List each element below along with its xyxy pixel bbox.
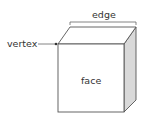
edge-bracket [70, 22, 136, 25]
vertex-pointer [38, 43, 57, 46]
vertex-label: vertex [7, 39, 37, 49]
face-label: face [81, 76, 101, 86]
cube-graphic [0, 0, 148, 118]
cube-diagram: edge vertex face [0, 0, 148, 118]
edge-label: edge [92, 10, 116, 20]
vertex-dot [55, 43, 58, 46]
top-face [58, 27, 136, 44]
